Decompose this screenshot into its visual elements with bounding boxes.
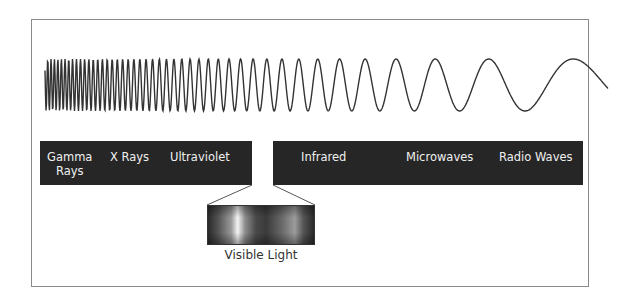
gamma-line2: Rays [47, 164, 92, 178]
band-label-radio: Radio Waves [499, 150, 573, 164]
band-label-xray: X Rays [110, 150, 149, 164]
band-label-infrared: Infrared [301, 150, 346, 164]
gamma-line1: Gamma [47, 150, 92, 164]
visible-light-slot [252, 141, 273, 185]
band-label-microwaves: Microwaves [406, 150, 473, 164]
band-label-ultraviolet: Ultraviolet [170, 150, 230, 164]
visible-spectrum-box [207, 205, 315, 245]
visible-light-label: Visible Light [200, 248, 322, 262]
band-label-gamma: Gamma Rays [47, 150, 92, 178]
